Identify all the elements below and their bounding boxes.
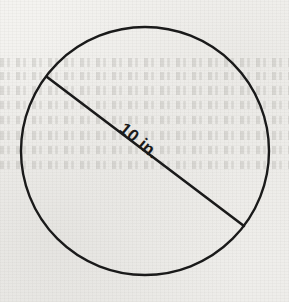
geometry-figure: 10 in. (0, 0, 289, 302)
